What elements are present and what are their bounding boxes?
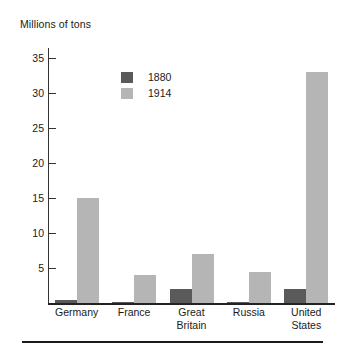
bar-group — [112, 48, 156, 303]
x-axis-category-labels: GermanyFranceGreat BritainRussiaUnited S… — [48, 306, 335, 346]
bar-group — [227, 48, 271, 303]
bar-group — [170, 48, 214, 303]
x-axis-category-label: Great Britain — [163, 306, 220, 331]
bar-1880-germany — [55, 300, 77, 303]
x-axis-category-label: Germany — [48, 306, 105, 319]
bar-1880-france — [112, 302, 134, 304]
bar-group — [284, 48, 328, 303]
y-axis-tick-label: 25 — [32, 122, 44, 134]
y-axis-tick-label: 15 — [32, 192, 44, 204]
y-axis-tick-label: 10 — [32, 227, 44, 239]
x-axis-category-label: United States — [278, 306, 335, 331]
bars-layer — [48, 48, 335, 303]
bar-1880-united-states — [284, 289, 306, 303]
bar-1914-russia — [249, 272, 271, 303]
y-axis-tick-label: 20 — [32, 157, 44, 169]
bar-1914-france — [134, 275, 156, 303]
bar-1914-great-britain — [192, 254, 214, 303]
x-axis-baseline — [48, 303, 335, 305]
bottom-divider-rule — [22, 341, 323, 343]
x-axis-category-label: France — [105, 306, 162, 319]
bar-group — [55, 48, 99, 303]
bar-1880-russia — [227, 302, 249, 304]
x-axis-category-label: Russia — [220, 306, 277, 319]
bar-1880-great-britain — [170, 289, 192, 303]
y-axis-tick-label: 5 — [38, 262, 44, 274]
bar-chart-figure: Millions of tons 5101520253035 18801914 … — [0, 0, 345, 353]
y-axis-tick-label: 30 — [32, 87, 44, 99]
bar-1914-united-states — [306, 72, 328, 303]
y-axis-tick-label: 35 — [32, 52, 44, 64]
y-axis-title: Millions of tons — [20, 18, 91, 30]
bar-1914-germany — [77, 198, 99, 303]
